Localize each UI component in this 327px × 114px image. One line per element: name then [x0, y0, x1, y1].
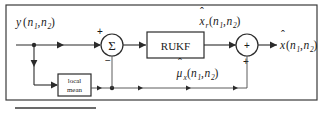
summing-junction-plus: + [97, 26, 103, 37]
summing-junction-minus: − [105, 55, 111, 66]
mean-label-close-paren: ) [215, 67, 219, 80]
mu-bus-arrow-2 [138, 86, 143, 91]
mean-label-arg2: n [205, 67, 211, 79]
input-label-close-paren: ) [51, 16, 55, 29]
summing-junction: Σ + − [97, 26, 123, 66]
output-arrow [270, 42, 277, 49]
local-mean-input-arrow [51, 82, 58, 89]
input-wire-arrow [57, 42, 64, 49]
sigma-symbol: Σ [108, 38, 116, 53]
local-mean-estimate-label: ˆ μ x ( n 1 , n 2 ) [176, 57, 219, 82]
input-label-arg2: n [41, 16, 47, 28]
output-estimate-label: ˆ x ( n 1 , n 2 ) [279, 29, 318, 54]
input-signal-label: y ( n 1 , n 2 ) [15, 16, 55, 31]
adder-input-arrow [229, 42, 236, 49]
input-label-base: y [15, 16, 22, 29]
rukf-block: RUKF [147, 32, 204, 58]
output-label-base: x [279, 39, 286, 51]
diagram-page: y ( n 1 , n 2 ) Σ + − [0, 0, 327, 114]
mu-bus-arrow-4 [233, 86, 238, 91]
input-branch-arrow [31, 60, 38, 67]
mu-bus-arrow-1 [97, 86, 102, 91]
rukf-block-label: RUKF [161, 40, 190, 52]
output-label-close-paren: ) [314, 39, 318, 52]
residual-label-base: x [199, 15, 206, 27]
rukf-input-arrow [139, 42, 146, 49]
input-label-arg1: n [28, 16, 34, 28]
block-diagram: y ( n 1 , n 2 ) Σ + − [0, 0, 327, 114]
residual-estimate-label: ˆ x r ( n 1 , n 2 ) [199, 6, 241, 30]
residual-label-arg2: n [227, 15, 233, 27]
output-adder-plus: + [244, 40, 250, 51]
input-label-open-paren: ( [23, 16, 27, 29]
output-adder-plus-bottom: + [243, 56, 249, 67]
local-mean-label-line1: local [68, 77, 82, 85]
sigma-input-arrow [94, 42, 101, 49]
mean-label-base: μ [176, 67, 183, 80]
output-label-arg1: n [290, 39, 296, 51]
local-mean-label-line2: mean [67, 86, 83, 94]
local-mean-block: local mean [58, 74, 91, 96]
mu-bus-arrow-3 [186, 86, 191, 91]
mean-label-arg1: n [191, 67, 197, 79]
residual-label-close-paren: ) [237, 15, 241, 28]
residual-label-arg1: n [213, 15, 219, 27]
output-label-arg2: n [304, 39, 310, 51]
